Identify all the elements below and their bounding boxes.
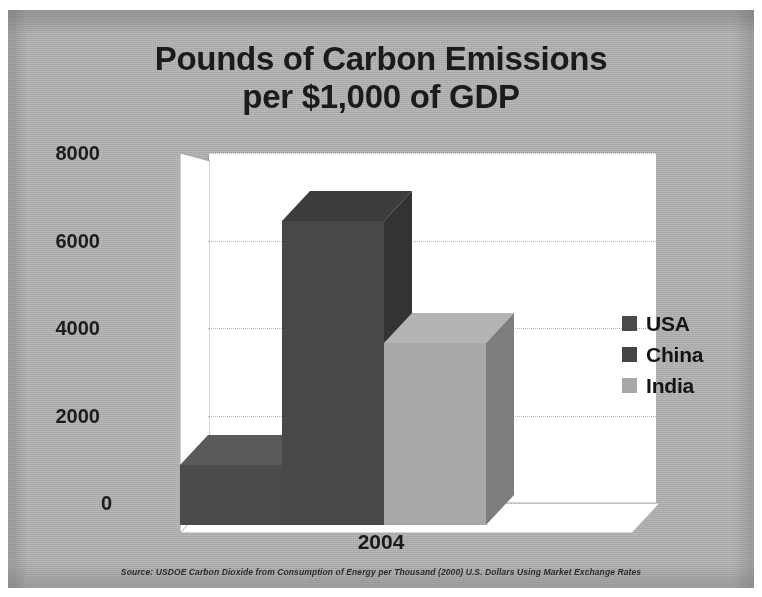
y-tick-6000: 6000 — [8, 230, 100, 253]
legend-label-china: China — [646, 343, 703, 367]
legend-label-india: India — [646, 374, 694, 398]
bar-india[interactable] — [384, 313, 514, 527]
legend-swatch-india — [622, 378, 637, 393]
slide-canvas: Pounds of Carbon Emissions per $1,000 of… — [8, 10, 754, 588]
legend-swatch-usa — [622, 316, 637, 331]
chart-title: Pounds of Carbon Emissions per $1,000 of… — [8, 40, 754, 116]
x-axis-label: 2004 — [8, 530, 754, 554]
chart-legend: USA China India — [622, 308, 703, 401]
bar-chart: 8000 6000 4000 2000 0 — [98, 145, 678, 545]
legend-item-china[interactable]: China — [622, 339, 703, 370]
legend-item-india[interactable]: India — [622, 370, 703, 401]
y-tick-2000: 2000 — [8, 405, 100, 428]
source-note: Source: USDOE Carbon Dioxide from Consum… — [8, 567, 754, 577]
legend-item-usa[interactable]: USA — [622, 308, 703, 339]
chart-title-line1: Pounds of Carbon Emissions — [155, 40, 607, 77]
gridline-6000 — [208, 241, 656, 242]
y-tick-0: 0 — [20, 492, 112, 515]
legend-label-usa: USA — [646, 312, 690, 336]
legend-swatch-china — [622, 347, 637, 362]
y-tick-8000: 8000 — [8, 142, 100, 165]
chart-title-line2: per $1,000 of GDP — [8, 78, 754, 116]
gridline-8000 — [208, 153, 656, 154]
y-tick-4000: 4000 — [8, 317, 100, 340]
